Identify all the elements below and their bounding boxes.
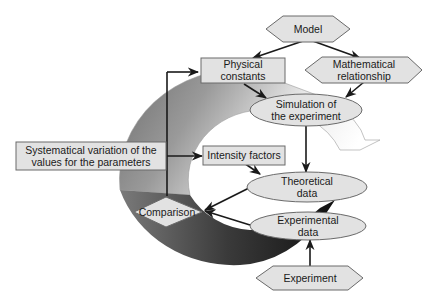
- diagram-canvas: Model Physical constants Mathematical re…: [0, 0, 435, 298]
- systematical-line1: Systematical variation of the: [25, 144, 156, 156]
- node-mathematical-relationship: Mathematical relationship: [305, 57, 422, 83]
- node-systematical-variation: Systematical variation of the values for…: [16, 142, 166, 170]
- node-simulation: Simulation of the experiment: [250, 94, 362, 126]
- model-label: Model: [294, 23, 323, 35]
- physical-constants-line2: constants: [221, 70, 266, 82]
- intensity-factors-label: Intensity factors: [207, 149, 281, 161]
- simulation-line2: the experiment: [271, 110, 341, 122]
- systematical-line2: values for the parameters: [31, 156, 150, 168]
- experimental-line1: Experimental: [277, 214, 338, 226]
- node-theoretical-data: Theoretical data: [247, 172, 367, 202]
- mathematical-line2: relationship: [337, 70, 391, 82]
- experimental-line2: data: [298, 226, 319, 238]
- simulation-line1: Simulation of: [276, 98, 337, 110]
- node-physical-constants: Physical constants: [201, 58, 285, 83]
- theoretical-line2: data: [297, 187, 318, 199]
- physical-constants-line1: Physical: [223, 58, 262, 70]
- node-experimental-data: Experimental data: [250, 212, 366, 240]
- mathematical-line1: Mathematical: [333, 58, 395, 70]
- node-model: Model: [266, 16, 350, 42]
- diagram-svg: Model Physical constants Mathematical re…: [0, 0, 435, 298]
- node-experiment: Experiment: [256, 266, 363, 290]
- theoretical-line1: Theoretical: [281, 175, 333, 187]
- node-intensity-factors: Intensity factors: [203, 146, 285, 165]
- experiment-label: Experiment: [283, 272, 336, 284]
- comparison-label: Comparison: [139, 206, 196, 218]
